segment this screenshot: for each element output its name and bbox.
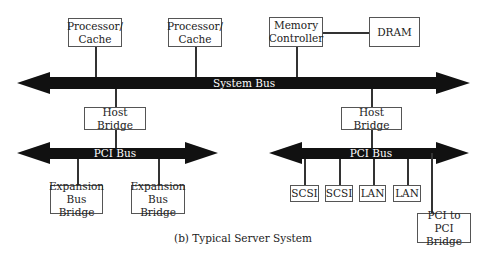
connector-line xyxy=(323,32,369,34)
lan-2: LAN xyxy=(393,185,421,202)
connector-line xyxy=(371,89,373,107)
scsi-1: SCSI xyxy=(290,185,319,202)
dram: DRAM xyxy=(369,17,420,47)
pci-bus-left-label: PCI Bus xyxy=(94,147,136,159)
server-system-diagram: System Bus PCI Bus PCI Bus Processor/Cac… xyxy=(0,0,487,262)
pci-to-pci-bridge: PCI to PCIBridge xyxy=(417,213,471,243)
expansion-bus-bridge-1: ExpansionBus Bridge xyxy=(50,185,103,214)
pci-bus-right-label: PCI Bus xyxy=(350,147,392,159)
system-bus-label: System Bus xyxy=(213,77,275,89)
figure-caption: (b) Typical Server System xyxy=(174,232,312,244)
lan-1: LAN xyxy=(359,185,386,202)
host-bridge-right: Host Bridge xyxy=(341,107,402,130)
connector-line xyxy=(304,159,306,185)
connector-line xyxy=(407,159,409,185)
connector-line xyxy=(195,47,197,77)
connector-line xyxy=(95,47,97,77)
connector-line xyxy=(296,47,298,77)
connector-line xyxy=(115,89,117,107)
connector-line xyxy=(339,159,341,185)
processor-cache-1: Processor/Cache xyxy=(68,18,122,47)
expansion-bus-bridge-2: ExpansionBus Bridge xyxy=(131,185,185,214)
processor-cache-2: Processor/Cache xyxy=(168,18,222,47)
connector-line xyxy=(371,130,373,148)
host-bridge-left: Host Bridge xyxy=(84,107,146,130)
connector-line xyxy=(431,153,433,213)
connector-line xyxy=(373,159,375,185)
connector-line xyxy=(115,130,117,148)
scsi-2: SCSI xyxy=(325,185,353,202)
memory-controller: MemoryController xyxy=(269,17,323,47)
